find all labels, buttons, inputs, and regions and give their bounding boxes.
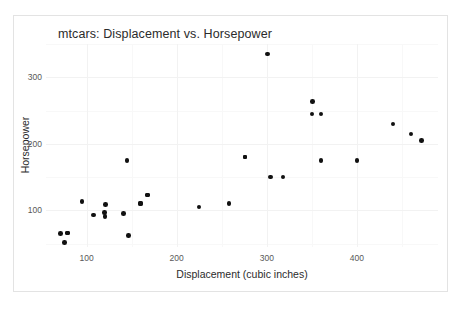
- data-point: [80, 199, 85, 204]
- gridline-minor-horizontal: [46, 44, 438, 45]
- x-axis-tick-label: 400: [350, 253, 364, 263]
- data-point: [355, 158, 360, 163]
- chart-figure: mtcars: Displacement vs. Horsepower 1002…: [0, 0, 462, 309]
- x-axis-tick-label: 300: [260, 253, 274, 263]
- data-point: [103, 214, 108, 219]
- data-point: [91, 213, 96, 218]
- data-point: [310, 112, 315, 117]
- plot-panel: [46, 44, 438, 247]
- gridline-major-horizontal: [46, 144, 438, 145]
- gridline-major-horizontal: [46, 77, 438, 78]
- gridline-major-vertical: [357, 44, 358, 247]
- data-point: [125, 158, 130, 163]
- data-point: [65, 231, 70, 236]
- gridline-minor-horizontal: [46, 177, 438, 178]
- data-point: [197, 205, 202, 210]
- data-point: [145, 193, 150, 198]
- gridline-major-vertical: [267, 44, 268, 247]
- gridline-minor-horizontal: [46, 111, 438, 112]
- y-axis-tick-label: 100: [20, 205, 42, 215]
- data-point: [281, 175, 286, 180]
- data-point: [409, 132, 414, 137]
- data-point: [319, 112, 324, 117]
- data-point: [138, 201, 143, 206]
- gridline-minor-vertical: [222, 44, 223, 247]
- gridline-minor-vertical: [312, 44, 313, 247]
- data-point: [310, 99, 315, 104]
- y-axis-tick-label: 300: [20, 72, 42, 82]
- data-point: [265, 52, 270, 57]
- data-point: [391, 122, 396, 127]
- gridline-minor-vertical: [402, 44, 403, 247]
- gridline-minor-vertical: [132, 44, 133, 247]
- x-axis-tick-label: 100: [79, 253, 93, 263]
- data-point: [319, 158, 324, 163]
- y-axis-title: Horsepower: [19, 117, 31, 174]
- data-point: [268, 175, 273, 180]
- gridline-minor-horizontal: [46, 244, 438, 245]
- data-point: [62, 240, 67, 245]
- gridline-major-vertical: [87, 44, 88, 247]
- data-point: [243, 155, 248, 160]
- data-point: [121, 211, 126, 216]
- data-point: [126, 233, 131, 238]
- data-point: [103, 202, 108, 207]
- gridline-major-vertical: [177, 44, 178, 247]
- data-point: [227, 201, 232, 206]
- x-axis-title: Displacement (cubic inches): [46, 268, 438, 280]
- data-point: [58, 231, 63, 236]
- data-point: [419, 138, 424, 143]
- x-axis-tick-label: 200: [170, 253, 184, 263]
- chart-title: mtcars: Displacement vs. Horsepower: [58, 27, 272, 41]
